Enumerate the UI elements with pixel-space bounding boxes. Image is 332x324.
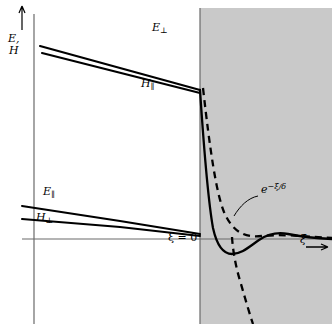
field-penetration-plot (0, 0, 332, 324)
curve-label-H-perp-subscript: ⊥ (46, 216, 54, 225)
curve-label-H-parallel-subscript: ∥ (151, 82, 155, 91)
conductor-region (200, 8, 332, 324)
curve-H-parallel (40, 46, 200, 90)
curve-label-E-parallel: E∥ (43, 186, 55, 199)
curve-label-H-perp: H⊥ (36, 212, 53, 225)
vertical-axis-arrowhead (19, 6, 25, 30)
figure-root: E, H E⊥ H∥ E∥ H⊥ ξ = 0 ξ e−ξ/δ (0, 0, 332, 324)
curve-label-H-parallel-symbol: H (141, 77, 151, 90)
boundary-label-xi-zero: ξ = 0 (168, 232, 197, 244)
horizontal-axis-label: ξ (300, 234, 306, 246)
exponential-decay-label: e−ξ/δ (261, 183, 286, 195)
curve-label-H-perp-symbol: H (36, 211, 46, 224)
curve-label-E-parallel-subscript: ∥ (51, 190, 55, 199)
exponential-decay-exponent: −ξ/δ (268, 182, 287, 191)
curve-label-E-perp-subscript: ⊥ (160, 26, 168, 35)
vertical-axis-label-line2: H (8, 45, 20, 57)
curve-label-E-perp-symbol: E (152, 21, 160, 34)
curve-label-E-parallel-symbol: E (43, 185, 51, 198)
curve-E-perp (42, 53, 200, 93)
vertical-axis-label-line1: E, (8, 33, 20, 45)
curve-label-E-perp: E⊥ (152, 22, 168, 35)
vertical-axis-label: E, H (8, 33, 20, 56)
curve-label-H-parallel: H∥ (141, 78, 154, 91)
